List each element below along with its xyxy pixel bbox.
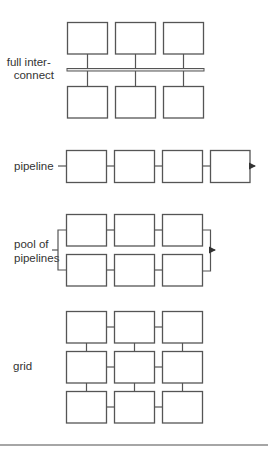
mesh-node bbox=[67, 392, 107, 424]
pipeline-group: pipeline bbox=[14, 151, 255, 183]
fan-out-bracket bbox=[58, 230, 67, 270]
grid-group: grid bbox=[13, 312, 203, 424]
full-interconnect-group: full inter- connect bbox=[7, 23, 204, 119]
mesh-node bbox=[67, 312, 107, 344]
pipeline-stage bbox=[67, 151, 107, 183]
grid-label: grid bbox=[13, 360, 32, 372]
pipeline-stage bbox=[163, 151, 203, 183]
processing-element bbox=[68, 87, 108, 119]
pipeline-stage bbox=[115, 255, 155, 287]
pipeline-stage bbox=[115, 151, 155, 183]
pipeline-label: pipeline bbox=[14, 160, 54, 172]
pipeline-stage bbox=[163, 215, 203, 247]
processing-element bbox=[68, 23, 108, 55]
mesh-node bbox=[163, 312, 203, 344]
pipeline-stage bbox=[211, 151, 251, 183]
mesh-node bbox=[163, 352, 203, 384]
full-interconnect-label: full inter- connect bbox=[7, 56, 55, 81]
interconnect-bus bbox=[67, 69, 204, 72]
processing-element bbox=[116, 23, 156, 55]
mesh-node bbox=[163, 392, 203, 424]
mesh-node bbox=[115, 352, 155, 384]
architecture-diagram: full inter- connect pipeline pool of bbox=[0, 0, 271, 449]
mesh-node bbox=[115, 312, 155, 344]
processing-element bbox=[116, 87, 156, 119]
pool-of-pipelines-group: pool of pipelines bbox=[14, 215, 215, 287]
mesh-node bbox=[67, 352, 107, 384]
processing-element bbox=[164, 87, 204, 119]
mesh-node bbox=[115, 392, 155, 424]
pipeline-stage bbox=[163, 255, 203, 287]
processing-element bbox=[164, 23, 204, 55]
pool-of-pipelines-label: pool of pipelines bbox=[14, 238, 60, 264]
pipeline-stage bbox=[67, 215, 107, 247]
fan-in-bracket bbox=[203, 230, 211, 271]
pipeline-stage bbox=[67, 255, 107, 287]
pipeline-stage bbox=[115, 215, 155, 247]
